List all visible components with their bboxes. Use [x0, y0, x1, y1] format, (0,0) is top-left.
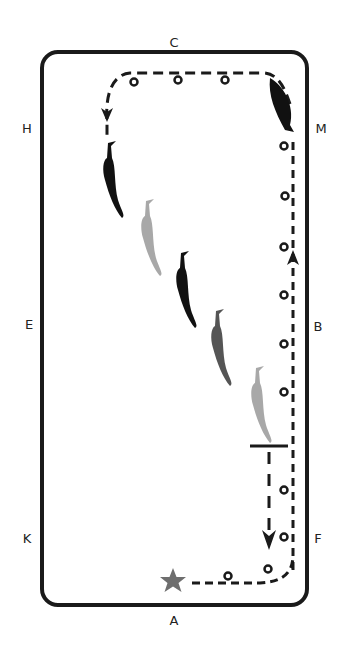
- star-icon: [160, 568, 186, 592]
- marker-a: A: [170, 614, 179, 627]
- marker-e: E: [25, 318, 33, 331]
- track-top: [107, 73, 290, 135]
- marker-f: F: [314, 532, 321, 545]
- direction-arrow-down-icon: [262, 530, 276, 550]
- horse-icon-3: [176, 251, 196, 328]
- arena-border: [42, 52, 307, 605]
- horse-icon-5: [251, 366, 271, 443]
- horse-icon-2: [141, 199, 161, 276]
- marker-b: B: [314, 320, 323, 333]
- marker-h: H: [22, 122, 32, 135]
- horse-icon-1: [103, 141, 123, 218]
- track-bottom: [192, 555, 293, 583]
- horse-icon-4: [211, 309, 231, 386]
- footprint-circles: [131, 77, 289, 580]
- marker-c: C: [169, 36, 178, 49]
- arena-diagram: [0, 0, 348, 652]
- marker-m: M: [315, 122, 326, 135]
- direction-arrow-up-icon: [287, 250, 299, 265]
- marker-k: K: [23, 532, 32, 545]
